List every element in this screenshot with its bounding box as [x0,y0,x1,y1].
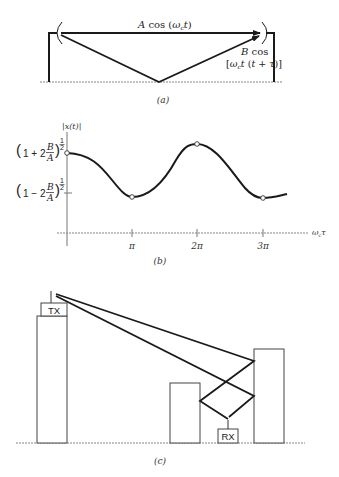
svg-text:2: 2 [60,144,64,151]
tx-label: TX [48,305,61,316]
point-3pi [261,196,266,201]
x-tick-label-3pi: 3π [257,241,270,251]
svg-text:A: A [46,153,54,163]
svg-text:1: 1 [60,177,64,184]
amplitude-curve [67,144,287,198]
path-2 [56,296,254,417]
x-tick-label-2pi: 2π [190,241,204,251]
panel-b-caption: (b) [154,256,167,266]
path-1 [56,294,254,419]
x-axis-label: ωcτ [312,228,326,238]
svg-text:1 + 2: 1 + 2 [23,148,46,159]
tx-building [37,316,67,443]
multipath-figure: A cos (ωct) B cos [ωct (t + τ)] (a) |x(t… [0,0,339,477]
reflected-signal-label-2: [ωct (t + τ)] [226,58,282,70]
svg-text:2: 2 [60,184,64,191]
rx-label: RX [221,431,235,442]
point-0 [65,151,70,156]
panel-a: A cos (ωct) B cos [ωct (t + τ)] (a) [40,19,283,105]
y-tick-label-lower: ( 1 − 2 B A ) 1 2 [16,177,65,203]
svg-text:1 − 2: 1 − 2 [23,188,46,199]
panel-b: |x(t)| ( 1 + 2 B A ) 1 2 ( 1 − 2 B A ) 1… [16,122,326,266]
point-pi [130,195,135,200]
panel-c-caption: (c) [154,456,167,466]
right-building [254,349,284,443]
direct-signal-label: A cos (ωct) [137,19,192,31]
panel-a-caption: (a) [157,95,170,105]
svg-text:A: A [46,193,54,203]
x-tick-label-pi: π [128,241,136,251]
svg-text:B: B [46,142,54,152]
panel-c: TX RX (c) [16,291,305,466]
transmitter-mast [49,33,57,82]
y-tick-label-upper: ( 1 + 2 B A ) 1 2 [16,137,65,163]
svg-text:(: ( [16,141,21,158]
svg-text:B: B [46,182,54,192]
point-2pi [195,142,200,147]
reflected-signal-label-1: B cos [240,46,268,57]
y-axis-label: |x(t)| [62,122,81,131]
middle-building [170,383,200,443]
svg-text:1: 1 [60,137,64,144]
svg-text:(: ( [16,181,21,198]
